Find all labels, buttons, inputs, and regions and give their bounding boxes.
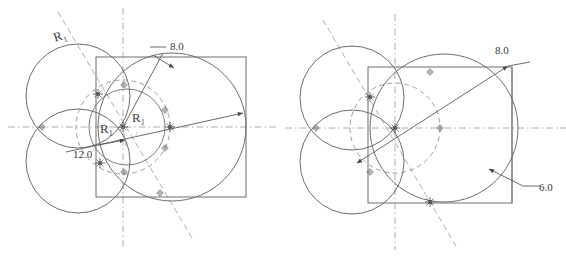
drawing-sheet: R1 R1 R1 8.0 12.0 bbox=[0, 0, 566, 256]
right-label-dim-6: 6.0 bbox=[539, 181, 553, 193]
left-label-dim-12: 12.0 bbox=[73, 148, 93, 160]
left-node-east bbox=[165, 122, 175, 132]
left-node-northwest bbox=[93, 89, 103, 99]
technical-drawing-canvas: R1 R1 R1 8.0 12.0 bbox=[0, 0, 566, 256]
sheet-background bbox=[0, 0, 566, 256]
right-node-northwest bbox=[365, 92, 375, 102]
right-label-dim-8: 8.0 bbox=[495, 44, 509, 56]
right-node-center bbox=[390, 123, 400, 133]
left-node-southwest bbox=[95, 158, 105, 168]
left-label-dim-8: 8.0 bbox=[170, 40, 184, 52]
right-node-south bbox=[425, 197, 435, 207]
